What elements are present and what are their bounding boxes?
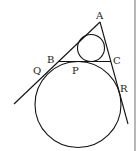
- label-R: R: [120, 83, 128, 94]
- label-P: P: [72, 65, 79, 76]
- geometry-figure: A B C P Q R: [0, 0, 139, 151]
- incircle: [78, 35, 105, 62]
- label-Q: Q: [33, 65, 41, 76]
- label-B: B: [47, 54, 54, 65]
- right-border-line: [134, 0, 136, 151]
- label-A: A: [95, 10, 104, 21]
- label-C: C: [113, 55, 121, 66]
- line-AR: [100, 22, 128, 124]
